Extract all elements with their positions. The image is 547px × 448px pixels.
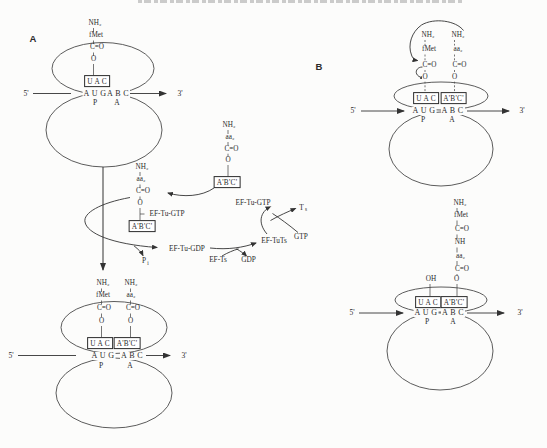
amine-attack-arrow <box>410 21 464 61</box>
cropped-text-artifact <box>138 0 463 3</box>
r1-amine: NH₂ <box>88 20 102 27</box>
r1-ester-o: O <box>90 56 96 63</box>
r2-carbonyl-1: C=O <box>96 305 111 312</box>
r2-ester-o-2: O <box>127 318 133 325</box>
r2-five-prime: 5' <box>8 352 13 360</box>
cycle-ts-release: T <box>299 204 304 211</box>
r1-p-site: P <box>93 99 97 107</box>
tc-carbonyl: C=O <box>135 188 150 195</box>
r4-anticodon-box-abc: A'B'C' <box>441 296 468 308</box>
r3-anticodon-box-abc: A'B'C' <box>440 92 467 104</box>
cycle-gtp: GTP <box>294 233 309 240</box>
tc-aa2: aa₂ <box>136 176 146 183</box>
r4-five-prime: 5' <box>349 309 354 317</box>
pi-release-arrow <box>134 246 143 256</box>
r3-anticodon-box-uac: U A C <box>413 92 439 104</box>
tc-amine: NH₂ <box>135 164 149 171</box>
r3-carbonyl-2: C=O <box>452 62 467 69</box>
r1-three-prime: 3' <box>177 90 182 98</box>
r4-three-prime: 3' <box>517 309 522 317</box>
tc-ef-tu-gtp: EF-Tu-GTP <box>149 210 185 217</box>
r2-fmet: fMet <box>96 292 111 299</box>
panel-a-label: A <box>30 34 37 44</box>
figure-stage: ANH₂fMetC=OOU A CA U GA B CPA5'3'NH₂fMet… <box>0 0 547 448</box>
ribosome2-large-subunit <box>56 358 172 428</box>
r2-three-prime: 3' <box>181 352 186 360</box>
r2-codon-aug: A U G <box>91 352 116 360</box>
ft-aa2: aa₂ <box>225 134 235 141</box>
r4-amide-nh: NH <box>454 239 465 246</box>
r1-codon-aug: A U G <box>83 90 108 98</box>
r3-carbonyl-1: C=O <box>422 62 437 69</box>
ternary-complex-formation-arrow <box>168 188 214 196</box>
r2-anticodon-box-uac: U A C <box>87 337 113 349</box>
cycle-ef-tu-gdp: EF-Tu-GDP <box>169 245 206 252</box>
r2-carbonyl-2: C=O <box>125 305 140 312</box>
r4-a-site: A <box>450 318 455 326</box>
tc-ester-o: O <box>137 200 143 207</box>
cycle-pi: P <box>141 257 146 264</box>
r3-five-prime: 5' <box>350 107 355 115</box>
r4-carbonyl-2: C=O <box>454 266 469 273</box>
tuts-to-tugtp-arrow <box>261 207 270 235</box>
cycle-ts-release-sub: s <box>305 207 307 212</box>
ft-carbonyl: C=O <box>224 146 239 153</box>
r2-a-site: A <box>127 362 132 370</box>
r4-amine: NH₂ <box>453 200 467 207</box>
r1-carbonyl: C=O <box>89 44 104 51</box>
r1-codon-abc: A B C <box>106 90 130 98</box>
cycle-ef-tuts: EF-TuTs <box>261 237 288 244</box>
ribosome4-large-subunit <box>387 312 493 390</box>
r2-ester-o-1: O <box>98 318 104 325</box>
r4-anticodon-box-uac: U A C <box>415 296 441 308</box>
tugdp-to-tuts-arrow <box>210 243 256 249</box>
ft-anticodon-box: A'B'C' <box>214 176 241 188</box>
tc-anticodon-box: A'B'C' <box>129 220 156 232</box>
r1-five-prime: 5' <box>23 90 28 98</box>
r2-amine-1: NH₂ <box>96 280 110 287</box>
r1-fmet: fMet <box>89 32 104 39</box>
cycle-pi-sub: i <box>147 261 148 266</box>
cycle-ef-ts: EF-Ts <box>209 256 228 263</box>
r4-ester-o: O <box>453 276 459 283</box>
r3-fmet: fMet <box>422 46 437 53</box>
r3-amine-2: NH₂ <box>451 32 465 39</box>
r3-three-prime: 3' <box>519 107 524 115</box>
r4-carbonyl-1: C=O <box>454 226 469 233</box>
r3-aa2: aa₂ <box>453 46 463 53</box>
r2-amine-2: NH₂ <box>124 280 138 287</box>
gtp-in-curve <box>273 214 299 233</box>
r3-p-site: P <box>421 116 425 124</box>
r4-fmet: fMet <box>454 212 469 219</box>
ft-ester-o: O <box>225 157 231 164</box>
r3-ester-o-2: O <box>451 74 457 81</box>
cycle-ef-tu-gtp: EF-Tu-GTP <box>235 199 271 206</box>
bond-lines <box>94 28 458 338</box>
ribosome3-large-subunit <box>389 112 493 186</box>
r2-anticodon-box-abc: A'B'C' <box>114 337 141 349</box>
r3-amine-1: NH₂ <box>421 32 435 39</box>
r4-hydroxyl: OH <box>425 276 436 283</box>
r4-p-site: P <box>425 318 429 326</box>
r2-codon-abc: A B C <box>120 352 144 360</box>
ft-amine: NH₂ <box>222 122 236 129</box>
r3-ester-o-1: O <box>422 74 428 81</box>
r3-a-site: A <box>449 116 454 124</box>
panel-b-label: B <box>316 62 323 72</box>
r4-aa2: aa₂ <box>456 253 466 260</box>
ribosome1-large-subunit <box>46 93 162 167</box>
cycle-gdp: GDP <box>241 256 257 263</box>
r1-a-site: A <box>114 99 119 107</box>
r2-p-site: P <box>99 362 103 370</box>
r1-anticodon-box-uac: U A C <box>84 75 110 87</box>
r2-aa2: aa₂ <box>126 292 136 299</box>
